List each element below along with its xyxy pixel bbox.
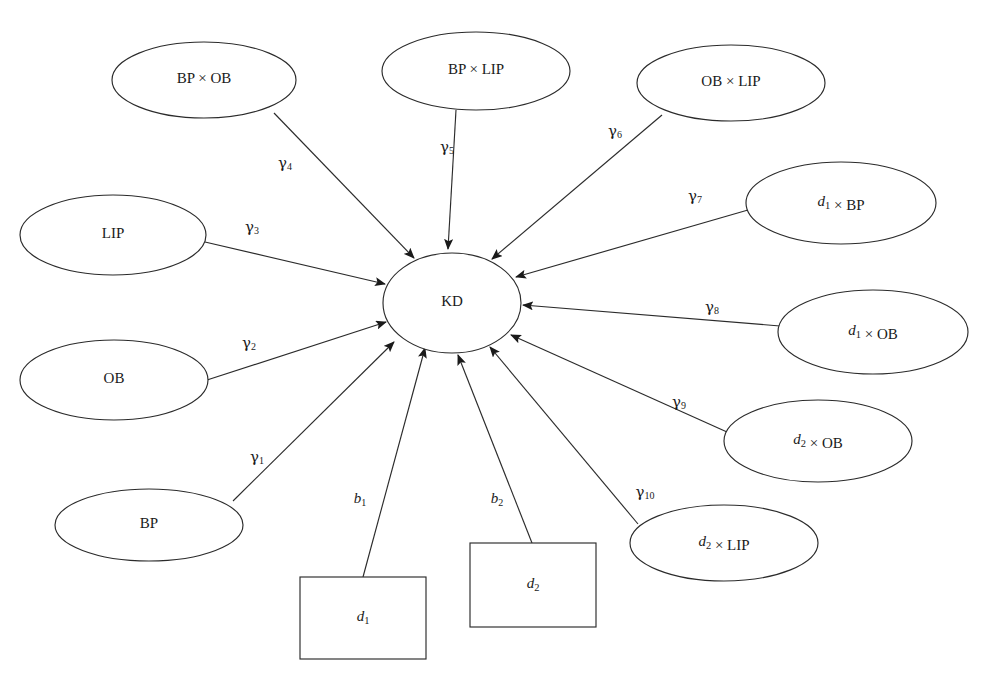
edge-line-ob-to-KD [207,322,386,380]
edge-label-e_g10: γ10 [636,483,655,501]
node-d2_x_lip[interactable]: d2 × LIP [630,505,818,581]
edge-line-d1-to-KD [363,348,425,577]
node-ellipse-ob_x_lip[interactable] [637,45,825,121]
edge-label-e_b1: b1 [354,490,367,508]
node-bp_x_lip[interactable]: BP × LIP [382,32,570,110]
node-ellipse-bp[interactable] [55,489,243,561]
edge-e_g4 [274,113,414,258]
edge-label-e_g6: γ6 [608,122,622,140]
edge-line-ob_x_lip-to-KD [492,115,662,259]
node-rect-d1[interactable] [300,577,426,659]
edge-label-e_g8: γ8 [705,298,719,316]
edge-line-d2_x_ob-to-KD [511,335,727,432]
edge-label-e_g2: γ2 [242,334,256,352]
edge-line-d1_x_bp-to-KD [516,210,748,277]
node-d2[interactable]: d2 [470,543,596,627]
edge-label-e_g3: γ3 [245,218,259,236]
edge-line-bp_x_ob-to-KD [274,113,414,258]
edge-label-e_g1: γ1 [250,448,264,466]
edge-line-d2_x_lip-to-KD [490,347,638,524]
edge-label-e_g7: γ7 [688,187,702,205]
node-bp_x_ob[interactable]: BP × OB [112,42,296,118]
edge-e_g1 [233,342,394,501]
edge-label-e_g4: γ4 [278,154,292,172]
edge-e_g10 [490,347,638,524]
node-ellipse-lip[interactable] [20,195,206,275]
node-ellipse-ob[interactable] [20,340,208,420]
edge-e_g8 [523,305,780,326]
edge-e_g6 [492,115,662,259]
nodes-layer: BP × OBBP × LIPOB × LIPd1 × BPd1 × OBd2 … [20,32,968,659]
node-ob[interactable]: OB [20,340,208,420]
node-rect-d2[interactable] [470,543,596,627]
path-diagram-svg: BP × OBBP × LIPOB × LIPd1 × BPd1 × OBd2 … [0,0,982,674]
node-bp[interactable]: BP [55,489,243,561]
node-ellipse-d2_x_ob[interactable] [724,400,912,482]
edge-label-e_g5: γ5 [440,138,454,156]
diagram-canvas: BP × OBBP × LIPOB × LIPd1 × BPd1 × OBd2 … [0,0,982,674]
node-d2_x_ob[interactable]: d2 × OB [724,400,912,482]
node-lip[interactable]: LIP [20,195,206,275]
node-d1_x_ob[interactable]: d1 × OB [778,290,968,374]
edge-e_g3 [205,242,385,284]
node-d1[interactable]: d1 [300,577,426,659]
edge-e_g5 [448,110,456,249]
edge-e_g9 [511,335,727,432]
node-ellipse-bp_x_lip[interactable] [382,32,570,110]
node-kd[interactable]: KD [383,253,521,353]
node-d1_x_bp[interactable]: d1 × BP [746,162,936,244]
node-ellipse-d1_x_ob[interactable] [778,290,968,374]
edge-line-lip-to-KD [205,242,385,284]
edge-line-d1_x_ob-to-KD [523,305,780,326]
node-ob_x_lip[interactable]: OB × LIP [637,45,825,121]
node-ellipse-kd[interactable] [383,253,521,353]
node-ellipse-bp_x_ob[interactable] [112,42,296,118]
edge-line-bp-to-KD [233,342,394,501]
edge-e_b1 [363,348,425,577]
edge-e_g7 [516,210,748,277]
node-ellipse-d2_x_lip[interactable] [630,505,818,581]
edge-label-e_b2: b2 [491,490,504,508]
node-ellipse-d1_x_bp[interactable] [746,162,936,244]
edge-e_g2 [207,322,386,380]
edge-line-bp_x_lip-to-KD [448,110,456,249]
